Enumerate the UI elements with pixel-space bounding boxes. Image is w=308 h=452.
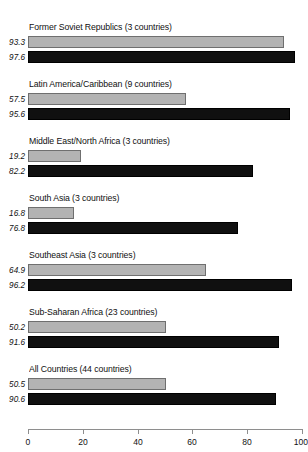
bar-row: 19.2	[0, 150, 308, 163]
bar-dark	[28, 336, 279, 348]
bar-value-label: 95.6	[1, 108, 25, 121]
x-axis-tick-label: 40	[119, 436, 156, 448]
x-axis-tick	[192, 429, 193, 434]
bar-chart: Former Soviet Republics (3 countries) 93…	[0, 0, 308, 452]
bar-group-title: Middle East/North Africa (3 countries)	[29, 135, 170, 146]
bar-row: 90.6	[0, 393, 308, 406]
x-axis-tick-label: 100	[282, 436, 308, 448]
bar-value-label: 57.5	[1, 93, 25, 106]
x-axis-tick	[28, 429, 29, 434]
bar-dark	[28, 222, 238, 234]
bar-row: 76.8	[0, 222, 308, 235]
bar-group-title: Southeast Asia (3 countries)	[29, 249, 135, 260]
bar-light	[28, 378, 166, 390]
bar-row: 97.6	[0, 51, 308, 64]
bar-group-title: South Asia (3 countries)	[29, 192, 119, 203]
bar-light	[28, 36, 284, 48]
x-axis-line	[28, 429, 302, 430]
bar-value-label: 50.5	[1, 378, 25, 391]
x-axis-tick-label: 60	[173, 436, 210, 448]
bar-row: 50.5	[0, 378, 308, 391]
bar-value-label: 90.6	[1, 393, 25, 406]
bar-group-title: Latin America/Caribbean (9 countries)	[29, 78, 172, 89]
x-axis-tick-label: 0	[9, 436, 46, 448]
bar-light	[28, 207, 74, 219]
bar-row: 57.5	[0, 93, 308, 106]
bar-dark	[28, 51, 295, 63]
bar-row: 96.2	[0, 279, 308, 292]
bar-value-label: 97.6	[1, 51, 25, 64]
bar-light	[28, 321, 166, 333]
bar-value-label: 50.2	[1, 321, 25, 334]
bar-row: 95.6	[0, 108, 308, 121]
bar-row: 91.6	[0, 336, 308, 349]
bar-dark	[28, 108, 290, 120]
bar-value-label: 82.2	[1, 165, 25, 178]
bar-group-title: Former Soviet Republics (3 countries)	[29, 21, 172, 32]
bar-dark	[28, 279, 292, 291]
x-axis-tick-label: 80	[228, 436, 265, 448]
bar-value-label: 93.3	[1, 36, 25, 49]
bar-row: 82.2	[0, 165, 308, 178]
bar-value-label: 16.8	[1, 207, 25, 220]
bar-value-label: 19.2	[1, 150, 25, 163]
bar-row: 93.3	[0, 36, 308, 49]
bar-value-label: 91.6	[1, 336, 25, 349]
bar-group-title: All Countries (44 countries)	[29, 363, 132, 374]
bar-dark	[28, 393, 276, 405]
bar-value-label: 96.2	[1, 279, 25, 292]
bar-row: 50.2	[0, 321, 308, 334]
x-axis-tick	[83, 429, 84, 434]
x-axis-tick-label: 20	[64, 436, 101, 448]
bar-group-title: Sub-Saharan Africa (23 countries)	[29, 306, 157, 317]
bar-light	[28, 150, 81, 162]
bar-light	[28, 264, 206, 276]
x-axis-tick	[302, 429, 303, 434]
bar-light	[28, 93, 186, 105]
bar-value-label: 64.9	[1, 264, 25, 277]
bar-row: 64.9	[0, 264, 308, 277]
bar-row: 16.8	[0, 207, 308, 220]
bar-value-label: 76.8	[1, 222, 25, 235]
x-axis-tick	[247, 429, 248, 434]
x-axis-tick	[138, 429, 139, 434]
plot-area: Former Soviet Republics (3 countries) 93…	[0, 0, 308, 452]
bar-dark	[28, 165, 253, 177]
